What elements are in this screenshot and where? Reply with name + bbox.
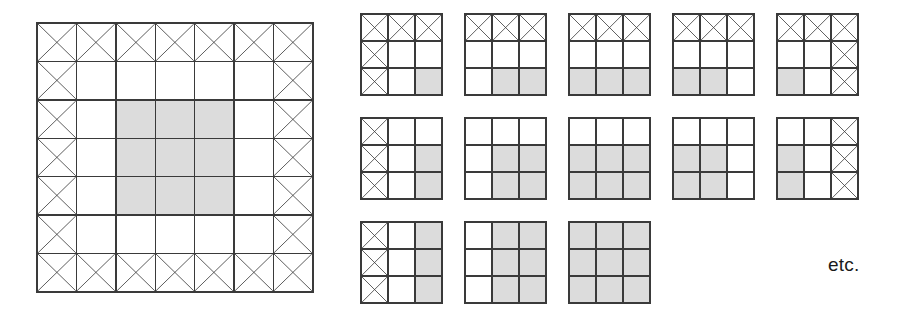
x-mark-icon xyxy=(362,250,387,275)
small-grid-12-cell-r2c2 xyxy=(493,250,518,275)
small-grid-8-cell-r3c2 xyxy=(597,173,622,198)
small-grid-12 xyxy=(464,221,547,304)
x-mark-icon xyxy=(728,15,753,40)
small-grid-6 xyxy=(360,117,443,200)
x-mark-icon xyxy=(832,146,857,171)
big-grid-cell-r4c7 xyxy=(274,139,312,176)
big-grid-cell-r1c2 xyxy=(77,24,115,61)
small-grid-13 xyxy=(568,221,651,304)
x-mark-icon xyxy=(195,254,233,291)
big-grid-cell-r7c2 xyxy=(77,254,115,291)
big-grid-cell-r6c6 xyxy=(235,216,273,253)
small-grid-8 xyxy=(568,117,651,200)
x-mark-icon xyxy=(832,119,857,144)
x-mark-icon xyxy=(832,15,857,40)
small-grid-13-cell-r2c1 xyxy=(570,250,595,275)
x-mark-icon xyxy=(597,15,622,40)
x-mark-icon xyxy=(274,216,312,253)
small-grid-6-cell-r1c3 xyxy=(416,119,441,144)
small-grid-13-cell-r1c2 xyxy=(597,223,622,248)
small-grid-5 xyxy=(776,13,859,96)
small-grid-6-cell-r2c3 xyxy=(416,146,441,171)
big-grid-cell-r5c7 xyxy=(274,177,312,214)
small-grid-9-cell-r3c2 xyxy=(701,173,726,198)
small-grid-8-cell-r2c3 xyxy=(624,146,649,171)
x-mark-icon xyxy=(38,101,76,138)
x-mark-icon xyxy=(77,254,115,291)
big-grid-cell-r7c4 xyxy=(156,254,194,291)
small-grid-9-cell-r1c2 xyxy=(701,119,726,144)
small-grid-2 xyxy=(464,13,547,96)
small-grid-5-cell-r2c3 xyxy=(832,42,857,67)
big-grid-cell-r5c4 xyxy=(156,177,194,214)
small-grid-7-cell-r3c3 xyxy=(520,173,545,198)
x-mark-icon xyxy=(38,62,76,99)
small-grid-11-cell-r2c2 xyxy=(389,250,414,275)
small-grid-3-cell-r3c1 xyxy=(570,69,595,94)
big-grid-cell-r7c6 xyxy=(235,254,273,291)
x-mark-icon xyxy=(416,15,441,40)
small-grid-12-cell-r1c1 xyxy=(466,223,491,248)
big-grid-cell-r1c4 xyxy=(156,24,194,61)
big-grid-cell-r6c3 xyxy=(117,216,155,253)
small-grid-9-cell-r1c3 xyxy=(728,119,753,144)
small-grid-4-cell-r3c3 xyxy=(728,69,753,94)
big-grid-cell-r6c5 xyxy=(195,216,233,253)
x-mark-icon xyxy=(778,15,803,40)
small-grid-4-cell-r1c1 xyxy=(674,15,699,40)
small-grid-10-cell-r2c2 xyxy=(805,146,830,171)
small-grid-3-cell-r1c3 xyxy=(624,15,649,40)
small-grid-12-cell-r1c2 xyxy=(493,223,518,248)
x-mark-icon xyxy=(362,277,387,302)
x-mark-icon xyxy=(77,24,115,61)
small-grid-1-cell-r1c1 xyxy=(362,15,387,40)
big-grid-cell-r2c3 xyxy=(117,62,155,99)
small-grid-8-cell-r2c2 xyxy=(597,146,622,171)
big-grid-cell-r4c3 xyxy=(117,139,155,176)
small-grid-2-cell-r2c1 xyxy=(466,42,491,67)
x-mark-icon xyxy=(466,15,491,40)
big-grid-cell-r4c1 xyxy=(38,139,76,176)
small-grid-3-cell-r2c3 xyxy=(624,42,649,67)
small-grid-12-cell-r3c2 xyxy=(493,277,518,302)
x-mark-icon xyxy=(235,24,273,61)
x-mark-icon xyxy=(674,15,699,40)
small-grid-13-cell-r3c2 xyxy=(597,277,622,302)
big-grid-cell-r6c4 xyxy=(156,216,194,253)
small-grid-2-cell-r1c1 xyxy=(466,15,491,40)
small-grid-12-cell-r2c3 xyxy=(520,250,545,275)
small-grid-2-cell-r3c2 xyxy=(493,69,518,94)
big-grid-cell-r1c5 xyxy=(195,24,233,61)
small-grid-12-cell-r2c1 xyxy=(466,250,491,275)
big-grid-cell-r3c3 xyxy=(117,101,155,138)
small-grid-9-cell-r3c3 xyxy=(728,173,753,198)
x-mark-icon xyxy=(362,119,387,144)
small-grid-1 xyxy=(360,13,443,96)
small-grid-7-cell-r1c3 xyxy=(520,119,545,144)
small-grid-7-cell-r2c3 xyxy=(520,146,545,171)
small-grid-10 xyxy=(776,117,859,200)
small-grid-8-cell-r3c1 xyxy=(570,173,595,198)
x-mark-icon xyxy=(235,254,273,291)
small-grid-11-cell-r3c3 xyxy=(416,277,441,302)
big-grid-cell-r7c1 xyxy=(38,254,76,291)
small-grid-11-cell-r3c2 xyxy=(389,277,414,302)
big-grid-cell-r6c1 xyxy=(38,216,76,253)
x-mark-icon xyxy=(832,42,857,67)
small-grid-3-cell-r3c2 xyxy=(597,69,622,94)
small-grid-4 xyxy=(672,13,755,96)
x-mark-icon xyxy=(570,15,595,40)
x-mark-icon xyxy=(274,101,312,138)
small-grid-4-cell-r3c1 xyxy=(674,69,699,94)
big-grid-cell-r7c3 xyxy=(117,254,155,291)
big-grid-cell-r1c1 xyxy=(38,24,76,61)
x-mark-icon xyxy=(156,24,194,61)
small-grid-1-cell-r2c3 xyxy=(416,42,441,67)
x-mark-icon xyxy=(38,139,76,176)
small-grid-8-cell-r3c3 xyxy=(624,173,649,198)
x-mark-icon xyxy=(274,177,312,214)
big-grid-cell-r5c1 xyxy=(38,177,76,214)
etc-label: etc. xyxy=(828,254,859,276)
big-grid-cell-r2c6 xyxy=(235,62,273,99)
figure-canvas: etc. xyxy=(0,0,917,318)
